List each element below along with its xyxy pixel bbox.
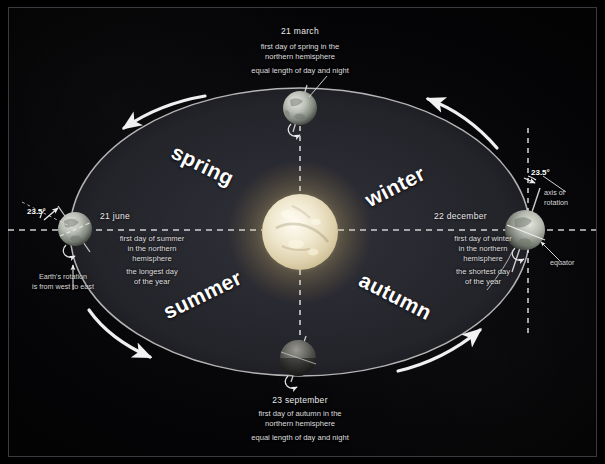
sun-body — [262, 194, 338, 270]
equator-leader — [541, 242, 561, 262]
earth-september-rotation-arrow — [285, 376, 297, 388]
earth-december-tilt-arc — [528, 176, 536, 180]
earth-march-body — [283, 91, 317, 125]
axis-of-rotation-leader — [543, 176, 566, 192]
diagram-vector-layer — [0, 0, 605, 464]
diagram-canvas: spring winter summer autumn 21 march fir… — [0, 0, 605, 464]
